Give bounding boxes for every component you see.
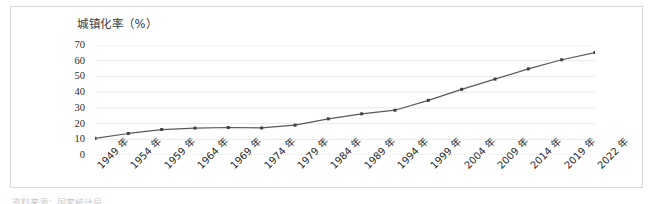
data-point-marker — [427, 99, 430, 102]
x-axis-tick-label: 2022 年 — [593, 134, 631, 172]
y-axis-tick-label: 50 — [59, 71, 85, 81]
data-point-marker — [560, 58, 563, 61]
data-point-marker — [260, 126, 263, 129]
data-line — [95, 53, 595, 139]
data-point-marker — [527, 67, 530, 70]
data-point-marker — [127, 132, 130, 135]
data-point-marker — [460, 88, 463, 91]
y-axis-tick-label: 60 — [59, 56, 85, 66]
y-axis-tick-label: 70 — [59, 40, 85, 50]
data-point-marker — [95, 137, 97, 140]
data-point-marker — [327, 117, 330, 120]
chart-screenshot: 城镇化率（%） 706050403020100 1949 年1954 年1959… — [0, 0, 655, 204]
data-point-marker — [160, 128, 163, 131]
data-point-marker — [594, 51, 596, 54]
y-axis-tick-label: 30 — [59, 103, 85, 113]
data-markers — [95, 51, 595, 140]
data-point-marker — [194, 127, 197, 130]
y-axis-tick-label: 40 — [59, 87, 85, 97]
chart-title: 城镇化率（%） — [77, 15, 157, 31]
data-point-marker — [227, 126, 230, 129]
data-point-marker — [394, 109, 397, 112]
figure-frame: 城镇化率（%） 706050403020100 1949 年1954 年1959… — [10, 6, 643, 188]
data-point-marker — [494, 78, 497, 81]
data-point-marker — [294, 124, 297, 127]
y-axis-tick-label: 10 — [59, 134, 85, 144]
data-point-marker — [360, 112, 363, 115]
figure-source-caption: 资料来源：国家统计局 — [12, 196, 102, 204]
y-axis-tick-label: 0 — [59, 150, 85, 160]
y-axis-tick-label: 20 — [59, 119, 85, 129]
